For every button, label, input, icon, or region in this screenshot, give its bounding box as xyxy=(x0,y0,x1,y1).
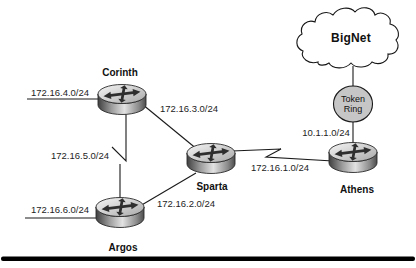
athens-label: Athens xyxy=(340,184,374,195)
network-label-corinth-sparta: 172.16.3.0/24 xyxy=(160,103,218,114)
argos-label: Argos xyxy=(109,242,138,253)
corinth-label: Corinth xyxy=(102,67,138,78)
network-label-sparta-athens: 172.16.1.0/24 xyxy=(251,162,309,173)
network-label-corinth-lan: 172.16.4.0/24 xyxy=(31,87,89,98)
router-icon-corinth xyxy=(98,84,146,114)
router-icon-athens xyxy=(329,142,377,172)
bottom-divider-bar xyxy=(1,257,415,262)
network-label-athens-tokenring: 10.1.1.0/24 xyxy=(302,127,350,138)
sparta-label: Sparta xyxy=(196,181,227,192)
bignet-label: BigNet xyxy=(331,31,371,45)
network-label-argos-lan: 172.16.6.0/24 xyxy=(31,204,89,215)
token-ring-label: Token Ring xyxy=(341,95,365,114)
network-label-argos-sparta: 172.16.2.0/24 xyxy=(157,198,215,209)
link-corinth-argos-serial xyxy=(112,112,126,202)
router-icon-argos xyxy=(96,197,144,227)
token-ring-label-line2: Ring xyxy=(341,104,365,114)
network-topology-diagram: Corinth Sparta Argos Athens BigNet Token… xyxy=(0,0,416,268)
router-icon-sparta xyxy=(187,143,235,173)
network-label-corinth-argos: 172.16.5.0/24 xyxy=(51,150,109,161)
link-sparta-athens-serial xyxy=(232,149,333,161)
